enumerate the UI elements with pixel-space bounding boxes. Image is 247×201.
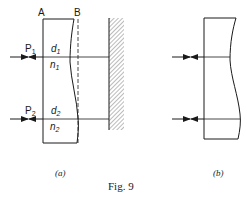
index-label-n1: n1 xyxy=(50,59,60,71)
thickness-label-d1: d1 xyxy=(51,43,61,55)
surface-label-b: B xyxy=(74,7,81,18)
plate-outline xyxy=(43,19,78,143)
panel-b: (b) xyxy=(172,18,240,178)
figure-caption: Fig. 9 xyxy=(108,180,134,192)
panel-label-b: (b) xyxy=(213,168,224,178)
surface-label-a: A xyxy=(38,7,45,18)
index-label-n2: n2 xyxy=(50,121,60,133)
mirror-wall-hatch xyxy=(109,18,124,130)
point-label-p2: P2 xyxy=(25,105,36,117)
point-label-p1: P1 xyxy=(25,43,36,55)
panel-label-a: (a) xyxy=(55,168,66,178)
figure-9: A B P1 d1 n1 P2 d2 n2 (a) (b) xyxy=(0,0,247,201)
thickness-label-d2: d2 xyxy=(51,105,61,117)
plate-outline xyxy=(204,18,240,139)
panel-a: A B P1 d1 n1 P2 d2 n2 (a) xyxy=(10,7,124,178)
